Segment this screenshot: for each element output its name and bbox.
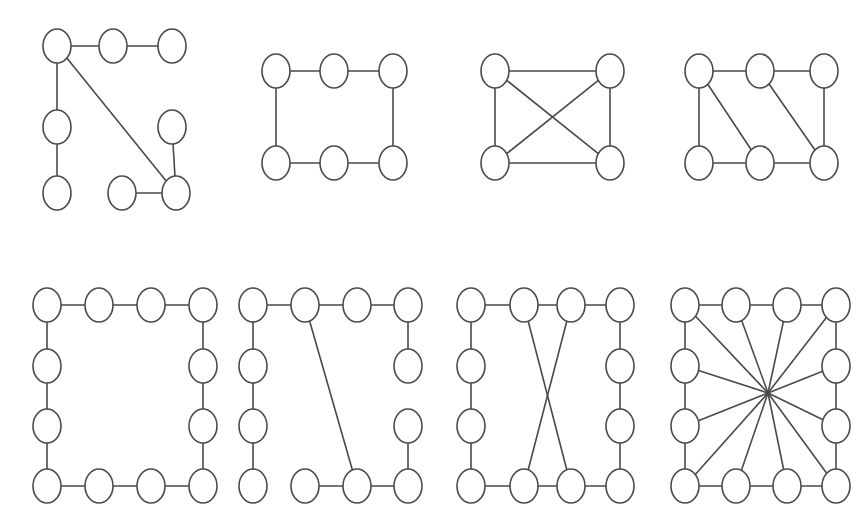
graph-node[interactable] (722, 288, 750, 322)
graph-node[interactable] (606, 409, 634, 443)
graph-node[interactable] (33, 469, 61, 503)
graph-node[interactable] (671, 409, 699, 443)
graph-node[interactable] (822, 288, 850, 322)
graph-node[interactable] (510, 288, 538, 322)
graph-node[interactable] (394, 409, 422, 443)
graph-node[interactable] (606, 288, 634, 322)
graph-node[interactable] (343, 288, 371, 322)
graph-node[interactable] (137, 469, 165, 503)
graph-node[interactable] (343, 469, 371, 503)
graph-node[interactable] (510, 469, 538, 503)
graph-node[interactable] (43, 29, 71, 63)
graph-node[interactable] (158, 110, 186, 144)
graph-node[interactable] (685, 146, 713, 180)
graph-node[interactable] (43, 110, 71, 144)
graph-node[interactable] (773, 469, 801, 503)
graph-node[interactable] (99, 29, 127, 63)
graph-figure-canvas (0, 0, 867, 518)
graph-node[interactable] (239, 409, 267, 443)
graph-node[interactable] (320, 146, 348, 180)
graph-node[interactable] (822, 349, 850, 383)
graph-node[interactable] (162, 176, 190, 210)
graph-node[interactable] (671, 288, 699, 322)
graph-node[interactable] (457, 409, 485, 443)
graph-node[interactable] (746, 146, 774, 180)
graph-node[interactable] (33, 349, 61, 383)
graph-node[interactable] (773, 288, 801, 322)
graph-node[interactable] (239, 288, 267, 322)
graph-node[interactable] (189, 409, 217, 443)
graph-node[interactable] (746, 54, 774, 88)
graph-node[interactable] (822, 409, 850, 443)
graph-node[interactable] (33, 288, 61, 322)
graph-node[interactable] (481, 146, 509, 180)
graph-node[interactable] (262, 54, 290, 88)
graph-node[interactable] (189, 469, 217, 503)
graph-node[interactable] (457, 288, 485, 322)
graph-node[interactable] (394, 288, 422, 322)
figure-background (0, 0, 867, 518)
graph-node[interactable] (158, 29, 186, 63)
graph-node[interactable] (239, 349, 267, 383)
graph-node[interactable] (457, 349, 485, 383)
graph-node[interactable] (137, 288, 165, 322)
graph-node[interactable] (379, 54, 407, 88)
graph-node[interactable] (606, 349, 634, 383)
graph-node[interactable] (239, 469, 267, 503)
graph-node[interactable] (685, 54, 713, 88)
graph-node[interactable] (606, 469, 634, 503)
graph-node[interactable] (557, 469, 585, 503)
graph-node[interactable] (457, 469, 485, 503)
graph-node[interactable] (722, 469, 750, 503)
graph-1[interactable] (43, 29, 190, 210)
graph-node[interactable] (810, 54, 838, 88)
graph-node[interactable] (85, 469, 113, 503)
graph-node[interactable] (291, 469, 319, 503)
graph-node[interactable] (481, 54, 509, 88)
graph-node[interactable] (262, 146, 290, 180)
graph-node[interactable] (557, 288, 585, 322)
graph-node[interactable] (320, 54, 348, 88)
graph-node[interactable] (189, 288, 217, 322)
graph-node[interactable] (43, 176, 71, 210)
graph-node[interactable] (85, 288, 113, 322)
graph-node[interactable] (822, 469, 850, 503)
graph-node[interactable] (394, 469, 422, 503)
graph-node[interactable] (291, 288, 319, 322)
graph-node[interactable] (394, 349, 422, 383)
graph-node[interactable] (33, 409, 61, 443)
graph-node[interactable] (189, 349, 217, 383)
graph-node[interactable] (108, 176, 136, 210)
graph-node[interactable] (379, 146, 407, 180)
graph-node[interactable] (596, 54, 624, 88)
graph-node[interactable] (671, 469, 699, 503)
graph-node[interactable] (671, 349, 699, 383)
graph-node[interactable] (596, 146, 624, 180)
graph-node[interactable] (810, 146, 838, 180)
